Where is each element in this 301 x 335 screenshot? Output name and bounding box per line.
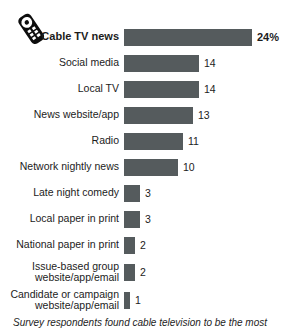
bar-area: 11 (124, 128, 301, 154)
bar-area: 14 (124, 50, 301, 76)
bar-label: Radio (0, 135, 124, 147)
bar-area: 10 (124, 154, 301, 180)
bar-row-local-tv: Local TV 14 (0, 76, 301, 102)
bar (124, 81, 199, 98)
bar-value: 2 (140, 239, 146, 251)
bar-row-news-website-app: News website/app 13 (0, 102, 301, 128)
bar-value: 3 (145, 187, 151, 199)
bar (124, 185, 140, 202)
bar-value: 1 (135, 294, 141, 306)
bar-row-cable-tv-news: Cable TV news 24% (0, 24, 301, 50)
bar-row-issue-based-group: Issue-based group website/app/email 2 (0, 258, 301, 286)
bar-area: 2 (124, 232, 301, 258)
bar-label: Late night comedy (0, 187, 124, 199)
bar-label: Social media (0, 57, 124, 69)
bar-row-network-nightly-news: Network nightly news 10 (0, 154, 301, 180)
bar-row-late-night-comedy: Late night comedy 3 (0, 180, 301, 206)
bar-row-local-paper-in-print: Local paper in print 3 (0, 206, 301, 232)
bar-label: Network nightly news (0, 161, 124, 173)
bar (124, 292, 130, 309)
bar-label: Local paper in print (0, 213, 124, 225)
bar-label: Candidate or campaign website/app/email (0, 289, 124, 312)
bar-value: 13 (198, 109, 210, 121)
bar-area: 3 (124, 206, 301, 232)
bar-rows: Cable TV news 24% Social media 14 Local … (0, 24, 301, 314)
bar-value: 14 (204, 83, 216, 95)
bar-area: 2 (124, 258, 301, 286)
bar-label: Issue-based group website/app/email (0, 261, 124, 284)
bar-value: 2 (140, 266, 146, 278)
bar-label: National paper in print (0, 239, 124, 251)
bar-value: 11 (188, 135, 199, 147)
bar-row-national-paper-in-print: National paper in print 2 (0, 232, 301, 258)
bar (124, 264, 135, 281)
bar (124, 237, 135, 254)
bar-label: Cable TV news (0, 31, 124, 43)
bar-chart-figure: Cable TV news 24% Social media 14 Local … (0, 0, 301, 335)
bar (124, 159, 178, 176)
bar-label: News website/app (0, 109, 124, 121)
bar-area: 3 (124, 180, 301, 206)
bar (124, 133, 183, 150)
bar-area: 1 (124, 286, 301, 314)
bar-area: 13 (124, 102, 301, 128)
bar-area: 14 (124, 76, 301, 102)
bar (124, 29, 252, 46)
bar-row-radio: Radio 11 (0, 128, 301, 154)
bar-area: 24% (124, 24, 301, 50)
bar-value: 10 (183, 161, 195, 173)
bar-row-social-media: Social media 14 (0, 50, 301, 76)
bar (124, 107, 193, 124)
bar-value: 14 (204, 57, 216, 69)
figure-caption: Survey respondents found cable televisio… (13, 316, 291, 329)
bar (124, 211, 140, 228)
bar-value: 24% (257, 31, 279, 43)
bar-row-candidate-or-campaign: Candidate or campaign website/app/email … (0, 286, 301, 314)
bar-label: Local TV (0, 83, 124, 95)
bar (124, 55, 199, 72)
bar-value: 3 (145, 213, 151, 225)
